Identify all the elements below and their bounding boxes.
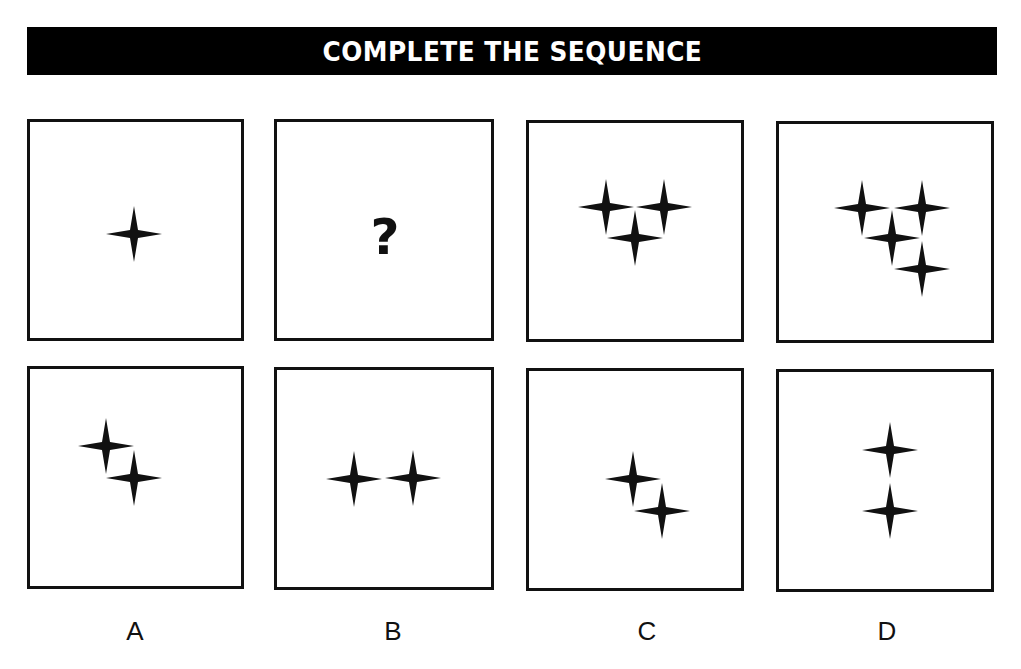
banner-title: COMPLETE THE SEQUENCE — [322, 36, 702, 67]
option-label-a: A — [126, 616, 143, 647]
option-label-d: D — [878, 616, 897, 647]
option-panel-a[interactable] — [27, 366, 244, 589]
title-banner: COMPLETE THE SEQUENCE — [27, 27, 997, 75]
question-mark: ? — [370, 208, 399, 266]
option-panel-b[interactable] — [274, 367, 494, 590]
option-label-c: C — [638, 616, 657, 647]
option-panel-d[interactable] — [776, 369, 994, 592]
option-panel-c[interactable] — [526, 368, 744, 591]
sequence-panel-4 — [776, 121, 994, 343]
option-label-b: B — [384, 616, 401, 647]
sequence-panel-3 — [526, 120, 744, 342]
sequence-panel-1 — [27, 119, 244, 341]
